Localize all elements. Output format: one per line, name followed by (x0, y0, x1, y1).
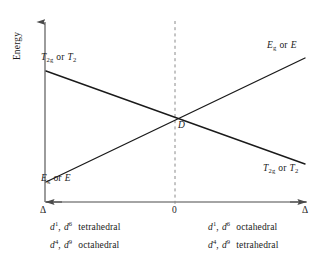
term-subscript: g (273, 44, 276, 51)
term-label-upper-right: EgorE (267, 41, 297, 51)
conjunction: or (279, 40, 287, 50)
caption-left-line-1: d1,d6tetrahedral (50, 223, 121, 233)
orgel-diagram-figure: Energy T2gorT2 EgorE EgorE T2gorT2 D 0 Δ… (0, 0, 320, 266)
conjunction: or (56, 52, 64, 62)
electron-config-superscript: 1 (55, 220, 58, 227)
term-symbol-alt: E (291, 40, 297, 50)
d-term-symbol: D (178, 120, 185, 130)
caption-right-line-2: d4,d9tetrahedral (208, 241, 279, 251)
electron-config-superscript: 9 (227, 238, 230, 245)
geometry-label: octahedral (78, 240, 119, 250)
electron-config-superscript: 1 (213, 220, 216, 227)
x-axis-right-delta-label: Δ (302, 206, 308, 216)
term-label-lower-left: EgorE (41, 174, 71, 184)
x-axis-zero-tick: 0 (172, 206, 177, 216)
conjunction: or (53, 173, 61, 183)
term-subscript: 2g (268, 167, 275, 174)
x-axis-left-delta-label: Δ (40, 206, 46, 216)
geometry-label: tetrahedral (78, 222, 120, 232)
term-subscript: g (47, 177, 50, 184)
electron-config-superscript: 9 (69, 238, 72, 245)
caption-left-line-2: d4,d9octahedral (50, 241, 119, 251)
electron-config-superscript: 4 (213, 238, 216, 245)
caption-right-line-1: d1,d6octahedral (208, 223, 277, 233)
term-symbol-alt: E (65, 173, 71, 183)
electron-config-superscript: 4 (55, 238, 58, 245)
electron-config-superscript: 6 (227, 220, 230, 227)
conjunction: or (278, 163, 286, 173)
term-label-upper-left: T2gorT2 (41, 53, 76, 63)
electron-config-superscript: 6 (69, 220, 72, 227)
geometry-label: octahedral (236, 222, 277, 232)
term-label-lower-right: T2gorT2 (263, 164, 298, 174)
term-subscript-alt: 2 (295, 167, 298, 174)
geometry-label: tetrahedral (236, 240, 278, 250)
y-axis-label: Energy (13, 17, 23, 75)
term-subscript-alt: 2 (73, 56, 76, 63)
term-subscript: 2g (46, 56, 53, 63)
free-ion-term-label: D (178, 121, 185, 131)
